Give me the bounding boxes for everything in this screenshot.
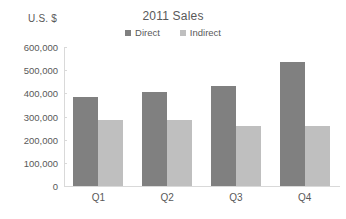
bar-q1-indirect[interactable] (98, 120, 123, 186)
bar-q4-indirect[interactable] (305, 126, 330, 186)
y-axis-tick-labels: 600,000500,000400,000300,000200,000100,0… (0, 47, 58, 186)
legend-swatch-indirect (180, 30, 186, 36)
bar-chart: U.S. $ 2011 Sales Direct Indirect 600,00… (0, 0, 346, 219)
y-axis-tick-mark (64, 163, 67, 164)
y-axis-tick-mark (64, 93, 67, 94)
bar-q2-indirect[interactable] (167, 120, 192, 186)
x-axis-tick-label: Q2 (133, 192, 202, 203)
y-axis-tick-label: 0 (53, 181, 58, 192)
bar-group (280, 47, 330, 186)
y-axis-tick-label: 500,000 (24, 65, 58, 76)
y-axis-tick-label: 100,000 (24, 157, 58, 168)
y-axis-tick-mark (64, 117, 67, 118)
bar-q4-direct[interactable] (280, 62, 305, 186)
bar-group (211, 47, 261, 186)
y-axis-tick-label: 600,000 (24, 42, 58, 53)
y-axis-tick-mark (64, 140, 67, 141)
bar-q1-direct[interactable] (73, 97, 98, 186)
bar-q2-direct[interactable] (142, 92, 167, 186)
y-axis-tick-label: 400,000 (24, 88, 58, 99)
y-axis-tick-label: 300,000 (24, 111, 58, 122)
y-axis-tick-label: 200,000 (24, 134, 58, 145)
chart-legend: Direct Indirect (0, 27, 346, 38)
bar-q3-direct[interactable] (211, 86, 236, 186)
x-axis-tick-label: Q4 (270, 192, 339, 203)
legend-label-indirect: Indirect (190, 27, 221, 38)
legend-label-direct: Direct (135, 27, 160, 38)
bar-q3-indirect[interactable] (236, 126, 261, 186)
bar-group (73, 47, 123, 186)
y-axis-tick-mark (64, 47, 67, 48)
bar-group (142, 47, 192, 186)
x-axis-tick-label: Q1 (64, 192, 133, 203)
plot-area (64, 47, 339, 186)
legend-swatch-direct (125, 30, 131, 36)
y-axis-tick-mark (64, 70, 67, 71)
chart-title: 2011 Sales (0, 9, 346, 23)
legend-item-direct[interactable]: Direct (125, 27, 160, 38)
y-axis-tick-mark (64, 186, 67, 187)
x-axis-line (64, 186, 340, 187)
legend-item-indirect[interactable]: Indirect (180, 27, 221, 38)
x-axis-tick-label: Q3 (202, 192, 271, 203)
